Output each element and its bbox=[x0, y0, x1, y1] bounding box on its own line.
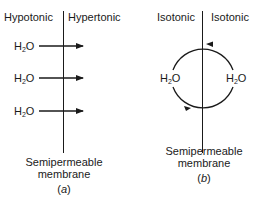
water-molecule-label-left: H2O bbox=[160, 72, 180, 84]
isotonic-label-right: Isotonic bbox=[211, 11, 249, 23]
water-molecule-label-right: H2O bbox=[226, 72, 246, 84]
membrane-caption-b-line2: membrane bbox=[154, 157, 254, 169]
water-molecule-label: H2O bbox=[14, 72, 34, 84]
hypotonic-label: Hypotonic bbox=[4, 11, 53, 23]
water-molecule-label: H2O bbox=[14, 105, 34, 117]
isotonic-label-left: Isotonic bbox=[157, 11, 195, 23]
membrane-caption-a-line1: Semipermeable bbox=[14, 156, 114, 168]
membrane-caption-b-line1: Semipermeable bbox=[154, 145, 254, 157]
membrane-caption-a-line2: membrane bbox=[14, 168, 114, 180]
water-molecule-label: H2O bbox=[14, 40, 34, 52]
hypertonic-label: Hypertonic bbox=[68, 11, 121, 23]
panel-caption-a: (a) bbox=[44, 183, 84, 195]
arrowhead-bottom bbox=[184, 106, 191, 111]
arrowhead-top bbox=[206, 42, 213, 48]
panel-caption-b: (b) bbox=[184, 172, 224, 184]
